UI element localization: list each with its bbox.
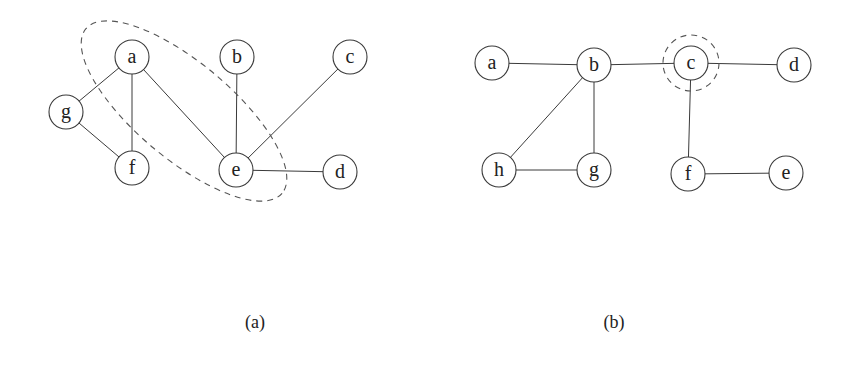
- node-label: h: [494, 158, 504, 180]
- node-label: g: [589, 158, 599, 181]
- panel-a-graph: abcgfed (a): [49, 0, 367, 333]
- node-d: d: [777, 48, 811, 82]
- node-label: f: [129, 156, 136, 178]
- graph-figure: abcgfed (a) abcdhgfe (b): [0, 0, 849, 373]
- node-label: f: [685, 162, 692, 184]
- node-label: a: [128, 45, 137, 67]
- node-f: f: [115, 151, 149, 185]
- node-c: c: [674, 46, 708, 80]
- node-label: b: [589, 53, 599, 75]
- node-c: c: [333, 40, 367, 74]
- node-label: d: [335, 160, 345, 182]
- node-label: c: [687, 51, 696, 73]
- node-a: a: [475, 46, 509, 80]
- node-b: b: [577, 48, 611, 82]
- node-f: f: [671, 157, 705, 191]
- panel-b-graph: abcdhgfe (b): [475, 35, 811, 333]
- edge-a-e: [132, 57, 236, 170]
- node-e: e: [219, 153, 253, 187]
- edge-c-e: [236, 57, 350, 170]
- node-label: c: [346, 45, 355, 67]
- panel-a-highlight: [55, 0, 313, 230]
- node-label: e: [232, 158, 241, 180]
- panel-a-caption: (a): [245, 312, 265, 333]
- node-b: b: [220, 40, 254, 74]
- node-h: h: [482, 153, 516, 187]
- node-d: d: [323, 155, 357, 189]
- dashed-ellipse-highlight: [55, 0, 313, 230]
- panel-a-nodes: abcgfed: [49, 40, 367, 189]
- node-label: e: [782, 161, 791, 183]
- node-a: a: [115, 40, 149, 74]
- node-label: d: [789, 53, 799, 75]
- node-e: e: [769, 156, 803, 190]
- panel-b-caption: (b): [604, 312, 625, 333]
- panel-b-nodes: abcdhgfe: [475, 46, 811, 191]
- node-g: g: [577, 153, 611, 187]
- edge-b-h: [499, 65, 594, 170]
- node-g: g: [49, 95, 83, 129]
- panel-a-edges: [66, 57, 350, 172]
- node-label: a: [488, 51, 497, 73]
- panel-b-edges: [492, 63, 794, 174]
- node-label: g: [61, 100, 71, 123]
- node-label: b: [232, 45, 242, 67]
